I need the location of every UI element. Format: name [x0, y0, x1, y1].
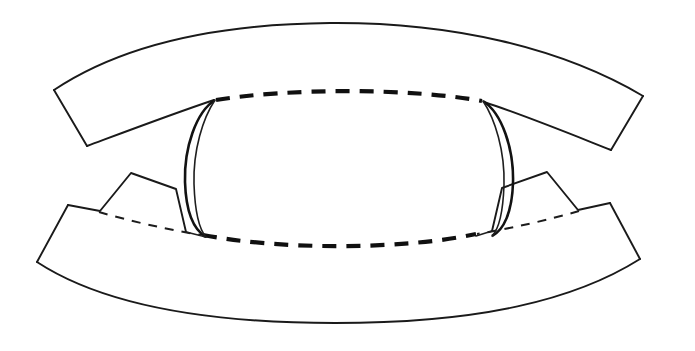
upper-band-outer-arc — [54, 23, 643, 96]
opening-lower-dashed-arc — [203, 234, 476, 246]
lower-band — [37, 172, 640, 323]
upper-band-right-end — [611, 96, 643, 150]
central-opening — [203, 91, 482, 246]
left-sliver-outer-arc — [185, 100, 215, 237]
upper-band-left-end — [54, 90, 87, 146]
left-sliver — [185, 100, 215, 237]
lower-band-outer-arc — [37, 259, 640, 323]
opening-upper-dashed-arc — [216, 91, 482, 101]
upper-band-inner-left-edge — [87, 100, 214, 146]
upper-band — [54, 23, 643, 150]
right-sliver — [476, 101, 513, 236]
right-sliver-outer-arc — [483, 101, 513, 236]
lower-band-left-tab — [68, 173, 186, 232]
lower-band-right-end — [610, 203, 640, 259]
lower-band-left-end — [37, 205, 68, 262]
lower-band-right-tab — [492, 172, 610, 231]
line-drawing-svg — [0, 0, 695, 351]
figure-canvas — [0, 0, 695, 351]
